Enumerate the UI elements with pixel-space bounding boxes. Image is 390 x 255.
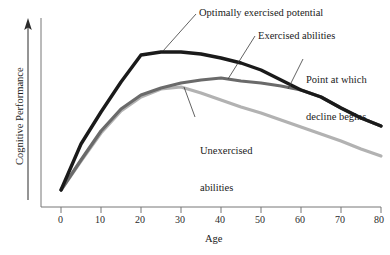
x-tick-label-60: 60: [295, 214, 305, 226]
x-tick-label-50: 50: [255, 214, 265, 226]
annotation-decline-line-2: decline begins: [306, 111, 367, 123]
annotation-exercised-abilities: Exercised abilities: [258, 30, 335, 42]
y-axis-title: Cognitive Performance: [14, 67, 25, 165]
annotation-unexercised-abilities: Unexercised abilities: [200, 120, 252, 207]
leader-line-optimally-exercised-potential: [163, 14, 196, 51]
x-tick-label-20: 20: [135, 214, 145, 226]
x-axis-ticks: [61, 207, 381, 213]
leader-line-point-at-which-decline-begins: [288, 59, 303, 89]
annotation-unexercised-line-1: Unexercised: [200, 145, 252, 157]
annotation-decline-line-1: Point at which: [306, 74, 367, 86]
y-axis-arrow-icon: [24, 18, 32, 200]
annotation-unexercised-line-2: abilities: [200, 182, 252, 194]
annotation-optimally-exercised-potential: Optimally exercised potential: [199, 7, 323, 19]
x-tick-label-30: 30: [175, 214, 185, 226]
leader-line-exercised-abilities: [228, 36, 255, 79]
x-tick-label-40: 40: [215, 214, 225, 226]
x-tick-label-0: 0: [58, 214, 63, 226]
x-axis-title: Age: [205, 233, 223, 245]
x-tick-label-80: 80: [374, 214, 384, 226]
x-tick-label-70: 70: [335, 214, 345, 226]
annotation-point-at-which-decline-begins: Point at which decline begins: [306, 49, 367, 136]
x-tick-label-10: 10: [95, 214, 105, 226]
